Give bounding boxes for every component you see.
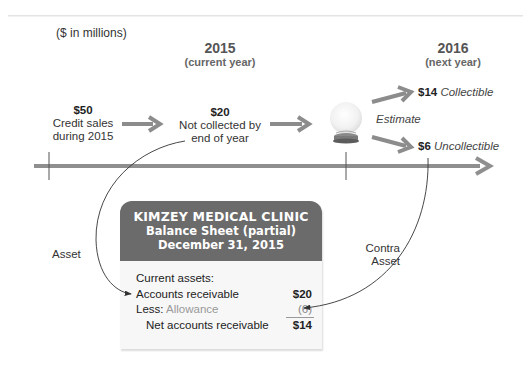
timeline-axis <box>34 152 490 180</box>
contra-asset-connector <box>304 158 428 308</box>
flow-arrow-uncollectible <box>372 137 411 152</box>
flow-arrow-1 <box>122 117 160 131</box>
asset-connector <box>96 141 185 294</box>
flow-arrow-2 <box>270 117 309 131</box>
crystal-ball-icon <box>330 102 362 144</box>
flow-arrow-collectible <box>372 87 411 102</box>
diagram-overlay <box>0 0 523 368</box>
